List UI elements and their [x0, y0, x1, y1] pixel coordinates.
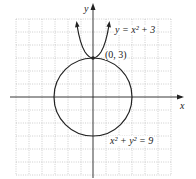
graph — [0, 0, 196, 179]
axes — [10, 6, 182, 178]
tangent-point — [91, 56, 95, 60]
y-axis-label: y — [84, 4, 88, 14]
point-label: (0, 3) — [105, 50, 127, 60]
y-axis-arrow-icon — [91, 3, 96, 10]
x-axis-label: x — [180, 101, 184, 111]
x-axis-arrow-icon — [177, 95, 184, 100]
circle-label: x² + y² = 9 — [110, 136, 153, 146]
parabola-right-arrow-icon — [107, 21, 112, 28]
parabola-left-arrow-icon — [75, 21, 80, 28]
parabola-label: y = x² + 3 — [115, 25, 155, 35]
